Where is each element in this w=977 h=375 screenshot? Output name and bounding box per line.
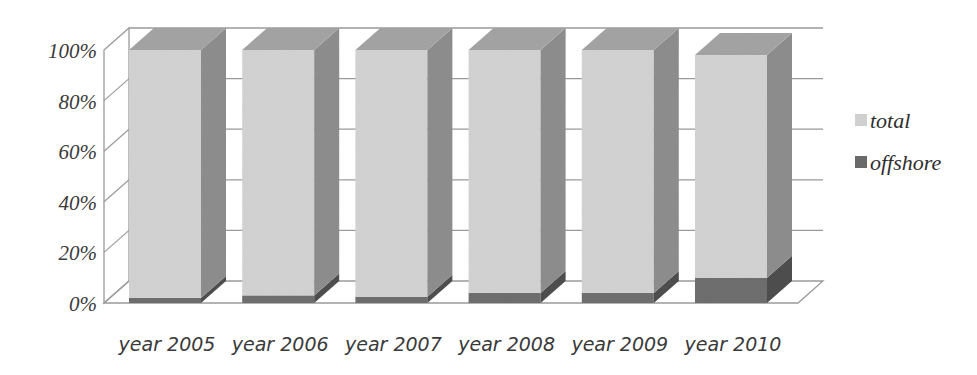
x-tick-label: year 2005 (118, 333, 216, 355)
y-axis: 0%20%40%60%80%100% (48, 39, 97, 316)
y-tick-label: 0% (69, 292, 97, 316)
x-tick-label: year 2006 (231, 333, 329, 355)
bar-year-2006 (242, 28, 339, 303)
x-axis: year 2005year 2006year 2007year 2008year… (118, 333, 782, 355)
legend: totaloffshore (855, 108, 942, 175)
bar-year-2010 (695, 33, 792, 303)
bars (129, 28, 792, 303)
bar-year-2008 (469, 28, 566, 303)
legend-label: offshore (870, 150, 942, 175)
x-tick-label: year 2007 (344, 333, 442, 355)
y-tick-label: 20% (59, 241, 98, 265)
y-tick-label: 80% (59, 90, 98, 114)
bar-year-2007 (355, 28, 452, 303)
legend-swatch (855, 114, 867, 126)
y-tick-label: 40% (59, 191, 98, 215)
bar-year-2005 (129, 28, 226, 303)
y-tick-label: 100% (48, 39, 97, 63)
legend-item-offshore: offshore (855, 150, 942, 175)
bar-year-2009 (582, 28, 679, 303)
legend-item-total: total (855, 108, 910, 133)
x-tick-label: year 2010 (684, 333, 782, 355)
y-tick-label: 60% (59, 140, 98, 164)
x-tick-label: year 2008 (457, 333, 555, 355)
stacked-bar-chart: 0%20%40%60%80%100% year 2005year 2006yea… (0, 0, 977, 375)
legend-label: total (870, 108, 910, 133)
x-tick-label: year 2009 (570, 333, 668, 355)
legend-swatch (855, 156, 867, 168)
